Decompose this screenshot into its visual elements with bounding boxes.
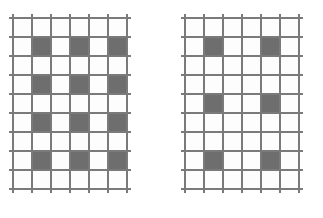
grid-cell-empty: [185, 151, 204, 170]
grid-cell-filled: [108, 75, 127, 94]
grid-cell-empty: [261, 170, 280, 189]
grid-cell-empty: [89, 132, 108, 151]
grid-cell-empty: [51, 37, 70, 56]
grid-cell-empty: [280, 151, 299, 170]
grid-cell-filled: [70, 113, 89, 132]
grid-cell-empty: [280, 113, 299, 132]
grid-cell-empty: [51, 170, 70, 189]
grid-cell-empty: [280, 170, 299, 189]
grid-cell-empty: [51, 132, 70, 151]
grid-cell-filled: [70, 75, 89, 94]
grid-cell-empty: [261, 113, 280, 132]
grid-cell-filled: [204, 94, 223, 113]
grid-cell-empty: [185, 170, 204, 189]
grid-cell-empty: [108, 94, 127, 113]
grid-cell-empty: [13, 56, 32, 75]
grid-cell-empty: [261, 18, 280, 37]
grid-cell-empty: [261, 75, 280, 94]
grid-cell-empty: [13, 94, 32, 113]
grid-cell-empty: [13, 75, 32, 94]
grid-cell-empty: [185, 113, 204, 132]
grid-cell-empty: [204, 170, 223, 189]
grid-cell-empty: [242, 56, 261, 75]
grid-cell-filled: [204, 37, 223, 56]
grid-cell-empty: [70, 94, 89, 113]
right-lattice-grid: [181, 14, 303, 193]
grid-cell-empty: [13, 18, 32, 37]
grid-cell-filled: [32, 151, 51, 170]
grid-cell-empty: [223, 132, 242, 151]
grid-cell-empty: [51, 113, 70, 132]
grid-cell-empty: [13, 37, 32, 56]
grid-cell-empty: [242, 151, 261, 170]
grid-cell-empty: [51, 56, 70, 75]
grid-cell-empty: [32, 18, 51, 37]
grid-cell-empty: [51, 151, 70, 170]
grid-cell-empty: [185, 94, 204, 113]
grid-cell-empty: [108, 132, 127, 151]
grid-cell-empty: [70, 56, 89, 75]
grid-cell-empty: [185, 18, 204, 37]
grid-cell-empty: [185, 37, 204, 56]
grid-cell-empty: [223, 18, 242, 37]
grid-cell-empty: [280, 37, 299, 56]
grid-cell-empty: [204, 75, 223, 94]
grid-cell-empty: [13, 151, 32, 170]
grid-cell-empty: [223, 37, 242, 56]
grid-cell-filled: [108, 151, 127, 170]
grid-cell-empty: [89, 56, 108, 75]
grid-cell-empty: [242, 113, 261, 132]
grid-cell-empty: [32, 94, 51, 113]
grid-cell-empty: [13, 170, 32, 189]
grid-cell-empty: [223, 75, 242, 94]
grid-cell-filled: [32, 37, 51, 56]
grid-cell-empty: [223, 151, 242, 170]
grid-cell-empty: [51, 94, 70, 113]
grid-cell-filled: [70, 37, 89, 56]
grid-cell-empty: [280, 132, 299, 151]
grid-cell-empty: [261, 132, 280, 151]
right-lattice-grid-svg: [181, 14, 303, 193]
grid-cell-empty: [70, 18, 89, 37]
grid-cell-empty: [280, 18, 299, 37]
grid-cell-empty: [204, 132, 223, 151]
grid-cell-empty: [13, 113, 32, 132]
grid-cell-empty: [242, 132, 261, 151]
grid-cell-empty: [280, 94, 299, 113]
grid-cell-empty: [185, 132, 204, 151]
grid-cell-empty: [242, 170, 261, 189]
grid-cell-empty: [280, 56, 299, 75]
grid-cell-empty: [89, 75, 108, 94]
grid-cell-empty: [108, 18, 127, 37]
grid-cell-filled: [261, 94, 280, 113]
grid-cell-empty: [242, 94, 261, 113]
grid-cell-empty: [261, 56, 280, 75]
grid-cell-empty: [13, 132, 32, 151]
grid-cell-empty: [51, 18, 70, 37]
grid-cell-empty: [89, 151, 108, 170]
grid-cell-empty: [223, 94, 242, 113]
grid-cell-filled: [108, 113, 127, 132]
grid-cell-empty: [32, 56, 51, 75]
grid-cell-empty: [108, 56, 127, 75]
grid-cell-empty: [89, 37, 108, 56]
grid-cell-empty: [89, 113, 108, 132]
grid-cell-filled: [108, 37, 127, 56]
grid-cell-empty: [280, 75, 299, 94]
grid-cell-filled: [70, 151, 89, 170]
grid-cell-empty: [223, 56, 242, 75]
grid-cell-empty: [70, 132, 89, 151]
grid-cell-empty: [51, 75, 70, 94]
grid-cell-empty: [89, 94, 108, 113]
grid-cell-empty: [242, 18, 261, 37]
grid-cell-filled: [204, 151, 223, 170]
grid-cell-empty: [204, 56, 223, 75]
left-lattice-grid: [9, 14, 131, 193]
grid-cell-empty: [89, 170, 108, 189]
grid-cell-empty: [204, 18, 223, 37]
grid-cell-empty: [89, 18, 108, 37]
grid-cell-empty: [242, 37, 261, 56]
grid-cell-empty: [185, 75, 204, 94]
grid-cell-empty: [185, 56, 204, 75]
grid-cell-empty: [223, 170, 242, 189]
